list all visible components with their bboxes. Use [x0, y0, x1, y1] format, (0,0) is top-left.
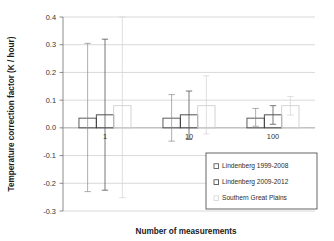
chart-figure: 0.40.30.20.10.0-0.1-0.2-0.3 110100 Numbe… — [0, 0, 334, 241]
x-tick-label: 10 — [185, 132, 193, 141]
x-axis-title: Number of measurements — [135, 227, 236, 236]
y-tick-label: -0.3 — [43, 207, 56, 216]
legend-item-label[interactable]: Lindenberg 1999-2008 — [222, 162, 289, 170]
legend-item-label[interactable]: Lindenberg 2009-2012 — [222, 178, 289, 186]
y-tick-marks — [60, 17, 64, 211]
legend-item-label[interactable]: Southern Great Plains — [222, 194, 288, 201]
legend[interactable]: Lindenberg 1999-2008Lindenberg 2009-2012… — [206, 153, 317, 209]
y-tick-label: 0.4 — [46, 13, 56, 22]
y-tick-label: 0.3 — [46, 40, 56, 49]
bar-chart-canvas: 0.40.30.20.10.0-0.1-0.2-0.3 110100 Numbe… — [0, 0, 334, 241]
y-tick-label: 0.2 — [46, 68, 56, 77]
y-tick-label: 0.0 — [46, 123, 56, 132]
y-tick-label: 0.1 — [46, 96, 56, 105]
y-tick-label: -0.2 — [43, 179, 56, 188]
legend-swatch — [214, 180, 219, 185]
y-tick-labels: 0.40.30.20.10.0-0.1-0.2-0.3 — [43, 13, 56, 216]
x-tick-label: 1 — [103, 132, 107, 141]
y-axis-title: Temperature correction factor (K / hour) — [7, 36, 16, 191]
legend-swatch — [214, 164, 219, 169]
legend-swatch — [214, 196, 219, 201]
x-tick-label: 100 — [267, 132, 279, 141]
y-tick-label: -0.1 — [43, 151, 56, 160]
